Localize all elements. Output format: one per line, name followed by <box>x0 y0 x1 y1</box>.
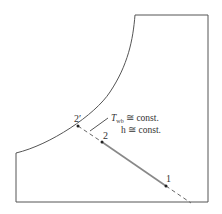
diagram-canvas: 2′ 2 1 Twb ≅ const. h ≅ const. <box>0 0 222 214</box>
point-2prime <box>77 125 80 128</box>
chart-boundary <box>16 15 208 202</box>
twb-subscript: wb <box>116 118 123 124</box>
process-line-solid <box>102 142 166 186</box>
label-2prime: 2′ <box>74 113 81 124</box>
twb-annotation: Twb ≅ const. <box>111 113 159 124</box>
point-1 <box>165 185 168 188</box>
label-2: 2 <box>103 130 108 141</box>
label-1: 1 <box>166 173 171 184</box>
twb-const: ≅ const. <box>124 113 159 123</box>
saturation-curve <box>16 15 135 153</box>
process-line-dashed-upper <box>78 126 102 142</box>
process-line-dashed-lower <box>166 186 191 203</box>
h-annotation: h ≅ const. <box>121 125 161 135</box>
